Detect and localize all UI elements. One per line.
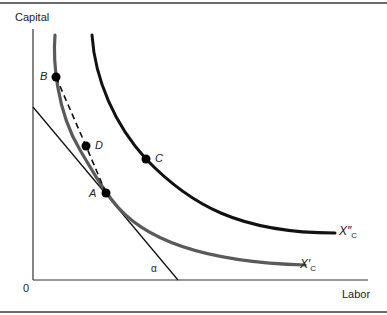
curve-label-base: X	[300, 257, 308, 271]
point-d	[82, 142, 91, 151]
dashed-chord	[56, 77, 106, 193]
isoquant-x-double-prime-c	[92, 35, 335, 233]
angle-alpha-label: α	[151, 263, 157, 274]
curve-label-subscript: C	[351, 231, 357, 240]
isoquant-diagram	[0, 0, 387, 315]
isoquant-x-prime-c	[54, 35, 305, 265]
point-b-label: B	[40, 70, 47, 82]
curve-label-subscript: C	[310, 264, 316, 273]
origin-label: 0	[23, 282, 29, 294]
point-b	[52, 73, 61, 82]
point-d-label: D	[95, 139, 103, 151]
x-axis-label: Labor	[342, 288, 370, 300]
point-a	[102, 189, 111, 198]
curve-label-x-prime-c: X′C	[300, 257, 316, 273]
point-a-label: A	[89, 187, 96, 199]
curve-label-x-double-prime-c: X″C	[339, 224, 357, 240]
curve-label-base: X	[339, 224, 347, 238]
point-c-label: C	[155, 152, 163, 164]
y-axis-label: Capital	[15, 11, 49, 23]
point-c	[142, 155, 151, 164]
